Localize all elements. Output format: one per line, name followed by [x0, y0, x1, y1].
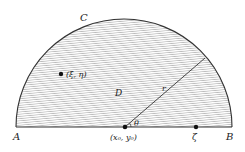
- region-D: [16, 19, 232, 127]
- label-theta: θ: [134, 119, 139, 128]
- label-B: B: [225, 131, 233, 142]
- point-xi-eta: [59, 72, 63, 76]
- semicircle-diagram: C A B D r θ (ξ, η) (x₀, y₀) ζ: [0, 0, 245, 152]
- label-D: D: [114, 88, 122, 98]
- label-A: A: [12, 131, 20, 142]
- point-zeta: [194, 125, 198, 129]
- label-C: C: [80, 12, 88, 23]
- label-zeta: ζ: [192, 132, 198, 142]
- label-center: (x₀, y₀): [110, 133, 137, 142]
- center-point: [123, 125, 128, 130]
- label-xi-eta: (ξ, η): [66, 70, 87, 79]
